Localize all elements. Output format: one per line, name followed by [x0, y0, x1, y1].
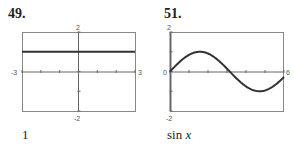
x-min-label: -3 — [11, 69, 17, 76]
answer-51-var: x — [185, 127, 191, 142]
graph-49: -3 3 2 -2 — [11, 24, 142, 122]
answer-51: sin x — [167, 127, 191, 143]
graph-51: 0 6 2 -2 — [163, 24, 290, 122]
x-min-label: 0 — [163, 69, 167, 76]
y-max-label: 2 — [76, 24, 80, 31]
graphs-canvas: -3 3 2 -2 0 6 2 -2 — [0, 0, 294, 146]
answer-51-func: sin — [167, 127, 185, 142]
x-max-label: 6 — [286, 69, 290, 76]
y-min-label: -2 — [74, 115, 80, 122]
y-max-label: 2 — [167, 24, 171, 31]
x-max-label: 3 — [138, 69, 142, 76]
y-min-label: -2 — [166, 115, 172, 122]
answer-49: 1 — [22, 127, 29, 143]
